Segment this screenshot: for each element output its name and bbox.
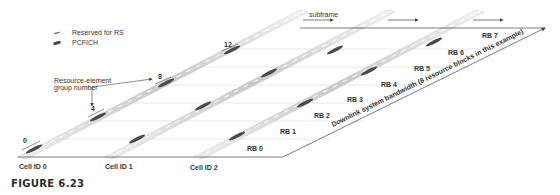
reg-label-line2: group number	[54, 84, 98, 92]
legend: Reserved for RS PCFICH	[53, 29, 124, 46]
rb-label-4: RB 4	[381, 81, 397, 88]
reg-number-4: 4	[91, 105, 95, 112]
rb-label-7: RB 7	[482, 32, 498, 39]
cell-id-2-label: Cell ID 2	[190, 164, 218, 171]
pcfich-mapping-diagram: subframe Reserved for RS PCFICH Resource…	[0, 0, 560, 195]
pcfich-marker-icon	[53, 41, 62, 46]
bandwidth-label: Downlink system bandwidth (8 resource bl…	[330, 28, 524, 129]
rb-grid-lines	[60, 49, 505, 139]
rb-label-2: RB 2	[314, 112, 330, 119]
legend-rs-label: Reserved for RS	[72, 29, 124, 36]
rb-labels: RB 0 RB 1 RB 2 RB 3 RB 4 RB 5 RB 6 RB 7	[247, 32, 498, 152]
rb-label-5: RB 5	[414, 65, 430, 72]
figure-caption: FIGURE 6.23	[11, 177, 84, 190]
bandwidth-frame	[18, 28, 545, 157]
rb-label-6: RB 6	[448, 49, 464, 56]
rb-label-3: RB 3	[347, 96, 363, 103]
subframe-label: subframe	[309, 11, 338, 18]
cell-1-strip	[105, 10, 395, 159]
cell-id-1-label: Cell ID 1	[105, 163, 133, 170]
reg-number-0: 0	[23, 137, 27, 144]
reg-number-12: 12	[224, 41, 232, 48]
rb-label-1: RB 1	[280, 128, 296, 135]
reg-label-line1: Resource-element	[54, 77, 111, 84]
cell-id-0-label: Cell ID 0	[19, 163, 47, 170]
rb-label-0: RB 0	[247, 145, 263, 152]
legend-pcfich-label: PCFICH	[72, 39, 98, 46]
reg-number-8: 8	[158, 73, 162, 80]
rs-marker-icon	[53, 31, 60, 34]
